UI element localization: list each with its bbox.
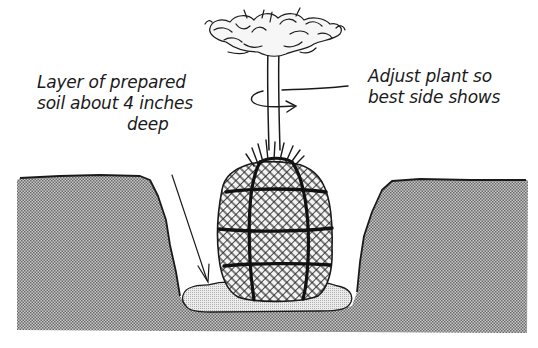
plant-trunk bbox=[268, 50, 280, 150]
soil-layer-line-2: soil about 4 inches bbox=[37, 93, 193, 114]
soil-layer-line-3: deep bbox=[37, 114, 193, 135]
adjust-plant-line-2: best side shows bbox=[368, 87, 500, 108]
arrow-down-icon bbox=[172, 175, 209, 282]
rotate-arrow-icon bbox=[251, 86, 348, 112]
adjust-plant-annotation: Adjust plant so best side shows bbox=[368, 66, 500, 108]
planting-diagram bbox=[0, 0, 538, 348]
soil-layer-annotation: Layer of prepared soil about 4 inches de… bbox=[37, 72, 193, 135]
adjust-plant-line-1: Adjust plant so bbox=[368, 66, 500, 87]
burlap-wrapped-root-ball bbox=[218, 140, 333, 301]
soil-layer-line-1: Layer of prepared bbox=[37, 72, 193, 93]
plant-foliage bbox=[205, 8, 345, 56]
